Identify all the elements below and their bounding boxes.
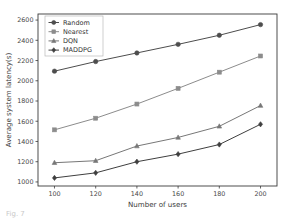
- y-tick-label: 1400: [17, 138, 33, 146]
- y-tick-label: 2600: [17, 16, 33, 24]
- series-dqn: [52, 103, 263, 164]
- x-tick-label: 140: [131, 190, 143, 198]
- legend-label: MADDPG: [63, 46, 92, 54]
- y-tick-label: 2000: [17, 77, 33, 85]
- data-point-circle-marker: [93, 59, 97, 63]
- data-point-circle-marker: [217, 33, 221, 37]
- y-tick-label: 1000: [17, 178, 33, 186]
- data-point-diamond-marker: [52, 175, 56, 180]
- x-tick-label: 200: [254, 190, 266, 198]
- data-point-square-marker: [176, 86, 180, 90]
- series-line: [54, 56, 260, 130]
- data-point-square-marker: [52, 128, 56, 132]
- y-tick-label: 2400: [17, 37, 33, 45]
- data-point-circle-marker: [258, 22, 262, 26]
- data-point-square-marker: [135, 102, 139, 106]
- legend-label: DQN: [63, 37, 78, 45]
- data-point-diamond-marker: [135, 159, 139, 164]
- data-point-circle-marker: [176, 42, 180, 46]
- figure-caption: Fig. 7: [0, 208, 286, 220]
- x-tick-label: 160: [172, 190, 184, 198]
- data-point-circle-marker: [52, 69, 56, 73]
- x-tick-label: 120: [90, 190, 102, 198]
- x-tick-label: 180: [213, 190, 225, 198]
- data-point-diamond-marker: [217, 142, 221, 147]
- data-point-square-marker: [94, 116, 98, 120]
- chart-legend: RandomNearestDQNMADDPG: [45, 16, 103, 56]
- chart-figure: 1000120014001600180020002200240026001001…: [0, 0, 286, 220]
- legend-label: Nearest: [63, 28, 89, 36]
- line-chart: 1000120014001600180020002200240026001001…: [0, 0, 286, 220]
- data-point-circle-marker: [52, 20, 56, 24]
- data-point-circle-marker: [135, 51, 139, 55]
- x-tick-label: 100: [48, 190, 60, 198]
- data-point-square-marker: [259, 54, 263, 58]
- data-point-diamond-marker: [94, 170, 98, 175]
- series-line: [54, 124, 260, 178]
- y-axis-title: Average system latency(s): [4, 52, 13, 147]
- series-maddpg: [52, 122, 262, 181]
- y-tick-label: 1800: [17, 97, 33, 105]
- data-point-triangle-marker: [258, 103, 263, 107]
- data-point-square-marker: [217, 70, 221, 74]
- legend-label: Random: [63, 19, 90, 27]
- y-tick-label: 1200: [17, 158, 33, 166]
- data-point-square-marker: [52, 30, 56, 34]
- y-tick-label: 1600: [17, 118, 33, 126]
- y-tick-label: 2200: [17, 57, 33, 65]
- data-point-diamond-marker: [176, 152, 180, 157]
- series-line: [54, 106, 260, 163]
- data-point-diamond-marker: [258, 122, 262, 127]
